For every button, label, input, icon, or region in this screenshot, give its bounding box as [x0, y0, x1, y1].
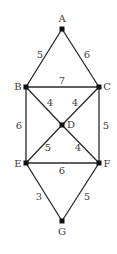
edge-weight-C-F: 5 [103, 120, 109, 131]
node-A [60, 27, 65, 32]
edge-A-C [62, 29, 99, 87]
node-label-C: C [103, 81, 111, 92]
edge-weight-B-E: 6 [16, 120, 22, 131]
node-label-B: B [14, 81, 21, 92]
edge-weight-E-F: 6 [59, 165, 65, 176]
node-C [97, 85, 102, 90]
node-label-F: F [104, 158, 111, 169]
weighted-graph-diagram: 567446554635 ABCDEFG [0, 0, 117, 254]
edge-weight-C-D: 4 [72, 97, 78, 108]
edge-weight-F-G: 5 [84, 191, 90, 202]
edge-weight-E-G: 3 [36, 191, 42, 202]
node-label-A: A [57, 13, 66, 24]
node-D [60, 123, 65, 128]
node-B [24, 85, 29, 90]
node-label-E: E [14, 158, 21, 169]
edge-weight-B-D: 4 [47, 97, 53, 108]
node-label-G: G [58, 226, 66, 237]
node-G [60, 219, 65, 224]
edge-weight-D-E: 5 [45, 142, 51, 153]
edge-weight-B-C: 7 [59, 75, 65, 86]
edge-weight-D-F: 4 [75, 142, 81, 153]
edge-weight-A-C: 6 [84, 49, 90, 60]
node-F [97, 161, 102, 166]
node-label-D: D [67, 119, 75, 130]
edge-F-G [62, 163, 99, 221]
edge-weight-A-B: 5 [37, 49, 43, 60]
edge-B-D [26, 87, 62, 125]
edge-A-B [26, 29, 62, 87]
node-E [24, 161, 29, 166]
edge-E-G [26, 163, 62, 221]
